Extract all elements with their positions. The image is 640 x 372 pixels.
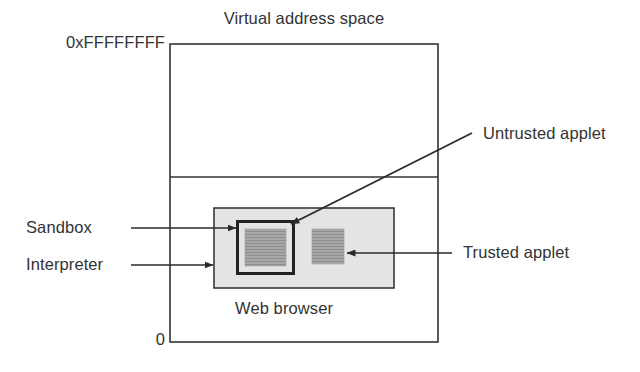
- virtual-address-space-diagram: Virtual address space 0xFFFFFFFF 0 Web b…: [0, 0, 640, 372]
- interpreter-label: Interpreter: [26, 256, 103, 273]
- web-browser-label: Web browser: [235, 300, 333, 317]
- untrusted-applet-label: Untrusted applet: [483, 125, 606, 142]
- trusted-applet-label: Trusted applet: [463, 244, 569, 261]
- address-bottom-label: 0: [156, 331, 165, 348]
- sandbox-label: Sandbox: [26, 219, 92, 236]
- address-top-label: 0xFFFFFFFF: [66, 34, 165, 51]
- trusted-applet-box: [312, 229, 344, 264]
- diagram-title: Virtual address space: [224, 10, 384, 27]
- virtual-address-space-box: [170, 44, 438, 342]
- untrusted-applet-box: [245, 229, 286, 266]
